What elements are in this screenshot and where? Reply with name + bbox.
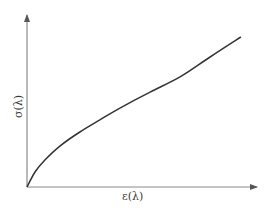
x-axis-label: ε(λ) <box>122 190 143 203</box>
y-axis-label: σ(λ) <box>12 92 25 122</box>
curve-line <box>27 37 241 187</box>
chart-canvas <box>0 0 275 217</box>
